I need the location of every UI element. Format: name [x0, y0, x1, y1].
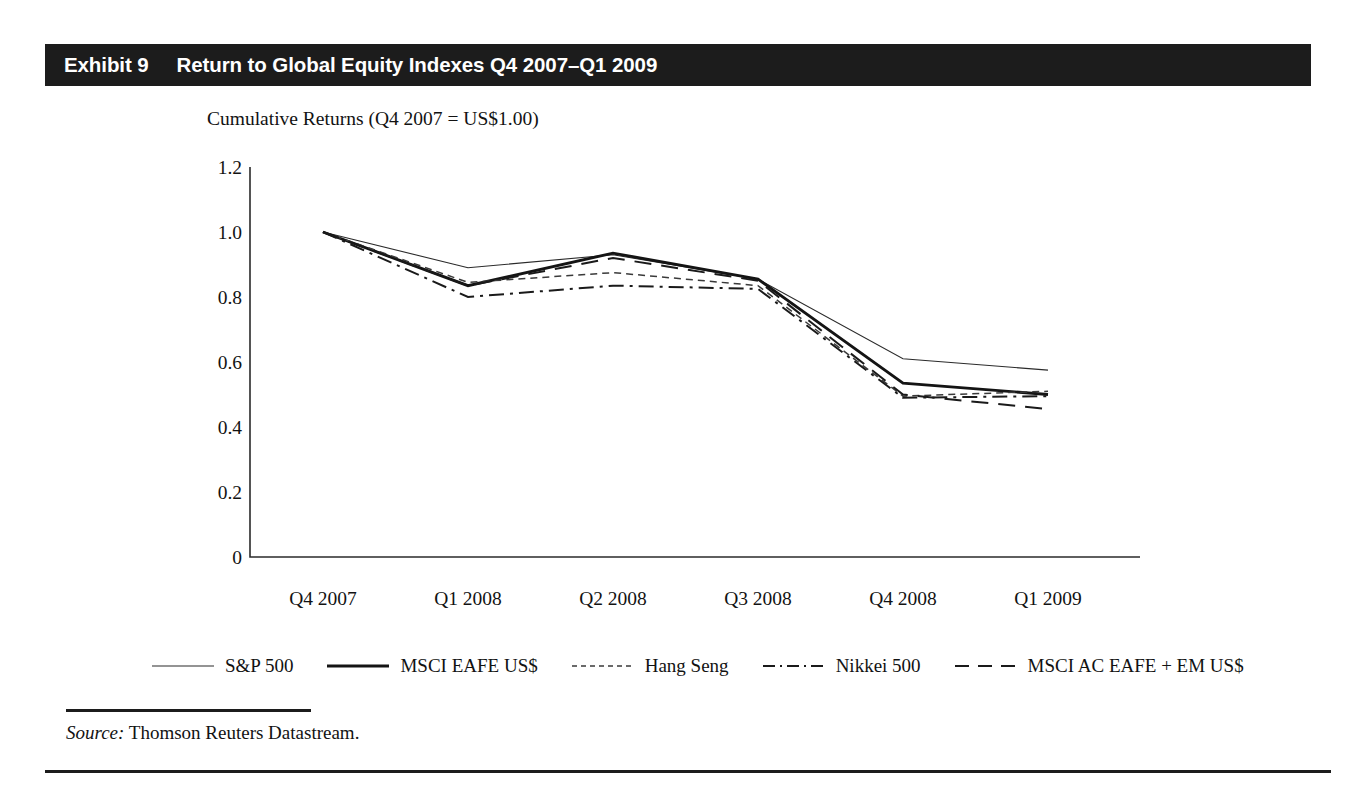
exhibit-title: Return to Global Equity Indexes Q4 2007–…: [149, 53, 658, 77]
x-tick-label: Q1 2009: [978, 588, 1118, 610]
source-line: Source: Thomson Reuters Datastream.: [66, 722, 359, 744]
x-tick-label: Q3 2008: [688, 588, 828, 610]
x-tick-label: Q1 2008: [398, 588, 538, 610]
legend-item-msci-eafe[interactable]: MSCI EAFE US$: [325, 655, 537, 677]
chart-legend: S&P 500 MSCI EAFE US$ Hang Seng Nikkei 5…: [150, 651, 1250, 681]
y-tick-label: 0.8: [186, 287, 242, 309]
source-value: Thomson Reuters Datastream.: [124, 722, 359, 743]
legend-label: Hang Seng: [636, 655, 729, 677]
legend-label: S&P 500: [216, 655, 293, 677]
chart-subtitle: Cumulative Returns (Q4 2007 = US$1.00): [207, 108, 539, 130]
y-tick-label: 1.0: [186, 222, 242, 244]
exhibit-page: Exhibit 9 Return to Global Equity Indexe…: [0, 0, 1360, 791]
y-tick-label: 0.2: [186, 482, 242, 504]
exhibit-header-bar: Exhibit 9 Return to Global Equity Indexe…: [45, 44, 1311, 86]
y-tick-label: 0.4: [186, 417, 242, 439]
exhibit-number: Exhibit 9: [45, 53, 149, 77]
legend-swatch-thin-solid: [150, 659, 216, 673]
chart-series-line: [323, 232, 1048, 409]
chart-series-line: [323, 232, 1048, 370]
y-tick-label: 1.2: [186, 157, 242, 179]
legend-label: Nikkei 500: [827, 655, 921, 677]
legend-swatch-thick-solid: [325, 659, 391, 673]
legend-item-msci-ac-eafe-em[interactable]: MSCI AC EAFE + EM US$: [953, 655, 1244, 677]
x-tick-label: Q2 2008: [543, 588, 683, 610]
chart-series-line: [323, 232, 1048, 396]
legend-label: MSCI AC EAFE + EM US$: [1019, 655, 1244, 677]
legend-item-nikkei-500[interactable]: Nikkei 500: [761, 655, 921, 677]
legend-item-sp500[interactable]: S&P 500: [150, 655, 293, 677]
y-tick-label: 0.6: [186, 352, 242, 374]
chart-axis-lines: [250, 167, 1140, 557]
legend-item-hang-seng[interactable]: Hang Seng: [570, 655, 729, 677]
x-tick-label: Q4 2008: [833, 588, 973, 610]
chart-series-line: [323, 232, 1048, 395]
exhibit-bottom-rule: [45, 770, 1331, 773]
legend-swatch-fine-dashed: [570, 659, 636, 673]
source-divider-rule: [66, 709, 311, 712]
x-tick-label: Q4 2007: [253, 588, 393, 610]
source-lead: Source:: [66, 722, 124, 743]
chart-series-line: [323, 232, 1048, 398]
legend-label: MSCI EAFE US$: [391, 655, 537, 677]
legend-swatch-dash-dot: [761, 659, 827, 673]
y-tick-label: 0: [186, 547, 242, 569]
legend-swatch-long-dashed: [953, 659, 1019, 673]
chart-series-group: [323, 232, 1048, 409]
